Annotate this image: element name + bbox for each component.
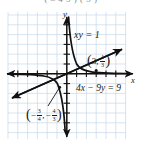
point-2-y-sign: − (46, 110, 51, 120)
comma: , (42, 110, 44, 120)
point-2-x-fraction: 3 4 (37, 108, 42, 122)
close-paren: ) (57, 108, 62, 122)
math-figure: ( – 4 5 ) ( 5 ) (0, 0, 142, 141)
intersection-point-2-label: ( − 3 4 , − 4 3 ) (26, 108, 62, 122)
point-2-x-sign: − (31, 110, 36, 120)
point-2-y-denominator: 3 (52, 116, 57, 122)
intersection-dot-1 (95, 69, 98, 72)
hyperbola-branch-quadrant-3 (8, 74, 65, 131)
intersection-dot-2 (58, 86, 61, 89)
point-1-y-fraction: 1 3 (100, 54, 105, 68)
x-axis-label: x (131, 76, 135, 85)
point-1-y-denominator: 3 (100, 62, 105, 68)
intersection-point-1-label: ( 3 , 1 3 ) (87, 54, 110, 68)
close-paren: ) (105, 54, 110, 68)
y-axis-label: y (63, 10, 67, 19)
comma: , (96, 56, 98, 66)
curve-equation-label: xy = 1 (74, 30, 100, 40)
point-2-y-fraction: 4 3 (52, 108, 57, 122)
coordinate-plane (0, 0, 142, 141)
point-2-x-denominator: 4 (37, 116, 42, 122)
line-equation-label: 4x − 9y = 9 (76, 84, 121, 94)
